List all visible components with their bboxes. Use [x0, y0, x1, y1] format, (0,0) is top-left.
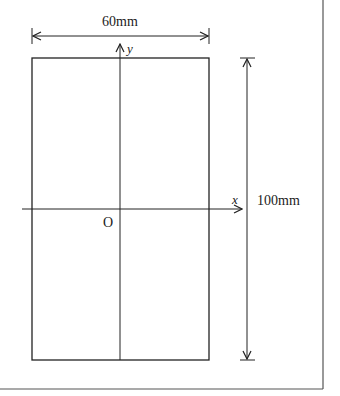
x-axis-label: x — [231, 192, 238, 207]
y-axis: y — [120, 41, 133, 360]
width-dimension: 60mm — [32, 14, 209, 44]
origin-label: O — [103, 215, 113, 230]
height-label: 100mm — [257, 193, 300, 208]
height-dimension: 100mm — [240, 58, 300, 360]
rectangle-section-diagram: 60mm y x O 100mm — [0, 0, 340, 396]
width-label: 60mm — [102, 14, 138, 29]
y-axis-label: y — [125, 41, 133, 56]
